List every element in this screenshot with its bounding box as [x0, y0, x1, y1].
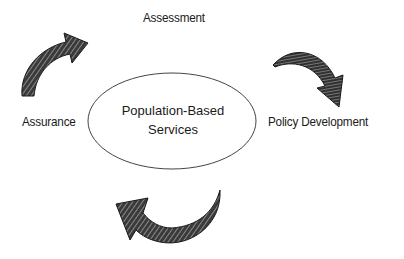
center-label: Population-Based Services [100, 101, 246, 139]
node-label-assessment: Assessment [143, 10, 205, 25]
arrow-assessment-to-policy-icon [273, 52, 343, 107]
arrow-policy-to-assurance-icon [116, 190, 220, 243]
node-label-assurance: Assurance [22, 114, 76, 129]
arrow-assurance-to-assessment-icon [22, 33, 88, 96]
node-label-policy-development: Policy Development [268, 114, 368, 129]
center-label-line1: Population-Based [100, 101, 246, 120]
center-label-line2: Services [100, 120, 246, 139]
